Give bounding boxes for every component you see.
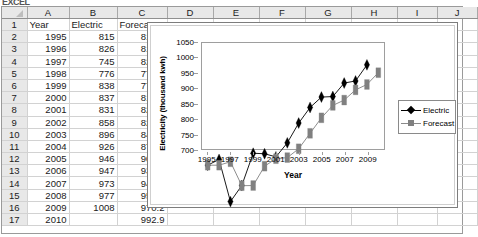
row-header[interactable]: 14 — [2, 177, 27, 189]
row-header[interactable]: 6 — [2, 79, 27, 91]
cell-electric[interactable]: 745 — [69, 55, 117, 67]
cell-electric[interactable]: 776 — [69, 67, 117, 79]
row-header[interactable]: 8 — [2, 104, 27, 116]
y-axis-tick-mark — [194, 57, 198, 58]
row-header[interactable]: 13 — [2, 165, 27, 177]
cell-electric[interactable]: 896 — [69, 128, 117, 140]
series-marker-electric — [319, 92, 324, 103]
column-header-i[interactable]: I — [397, 7, 437, 19]
cell-year[interactable]: 2007 — [27, 177, 69, 189]
y-axis-tick-label: 850 — [181, 99, 194, 108]
y-axis-tick-label: 750 — [181, 130, 194, 139]
cell-electric[interactable]: 973 — [69, 177, 117, 189]
cell-electric[interactable]: 815 — [69, 31, 117, 43]
cell-year[interactable]: 2010 — [27, 214, 69, 226]
row-header[interactable]: 9 — [2, 116, 27, 128]
row-header[interactable]: 11 — [2, 140, 27, 152]
cell-electric[interactable] — [69, 214, 117, 226]
row-header[interactable]: 1 — [2, 19, 27, 31]
cell-header-label[interactable]: Electric — [69, 19, 117, 31]
cell-electric[interactable]: 838 — [69, 79, 117, 91]
y-axis-tick-label: 700 — [181, 146, 194, 155]
x-axis-tick-label: 1999 — [244, 155, 262, 164]
column-header-g[interactable]: G — [305, 7, 351, 19]
column-header-c[interactable]: C — [117, 7, 167, 19]
series-marker-electric — [342, 78, 347, 89]
x-axis-tick-mark — [345, 152, 346, 155]
cell-year[interactable]: 1999 — [27, 79, 69, 91]
y-axis-tick-mark — [194, 119, 198, 120]
row-header[interactable]: 15 — [2, 189, 27, 201]
cell-electric[interactable]: 926 — [69, 140, 117, 152]
x-axis-tick-mark — [322, 152, 323, 155]
column-header-h[interactable]: H — [351, 7, 397, 19]
series-line-forecast — [208, 73, 379, 186]
series-marker-forecast — [342, 95, 347, 105]
cell-empty[interactable] — [437, 214, 477, 226]
y-axis-tick-label: 950 — [181, 68, 194, 77]
cell-year[interactable]: 2008 — [27, 189, 69, 201]
select-all-corner[interactable] — [2, 7, 27, 19]
column-header-a[interactable]: A — [27, 7, 69, 19]
series-marker-electric — [307, 102, 312, 113]
chart-legend[interactable]: Electric Forecast — [398, 100, 456, 134]
row-header[interactable]: 17 — [2, 214, 27, 226]
column-header-j[interactable]: J — [437, 7, 477, 19]
row-header[interactable]: 10 — [2, 128, 27, 140]
cell-header-label[interactable]: Year — [27, 19, 69, 31]
legend-item-forecast[interactable]: Forecast — [401, 117, 453, 130]
series-marker-electric — [228, 196, 233, 207]
y-axis-tick-mark — [194, 150, 198, 151]
cell-electric[interactable]: 837 — [69, 92, 117, 104]
cell-year[interactable]: 2006 — [27, 165, 69, 177]
cell-year[interactable]: 2002 — [27, 116, 69, 128]
cell-electric[interactable]: 947 — [69, 165, 117, 177]
cell-year[interactable]: 2009 — [27, 201, 69, 213]
series-marker-forecast — [319, 113, 324, 123]
y-axis-tick-mark — [194, 88, 198, 89]
row-header[interactable]: 2 — [2, 31, 27, 43]
chart-plot-area[interactable] — [201, 42, 385, 150]
cell-year[interactable]: 2001 — [27, 104, 69, 116]
x-axis-tick-label: 1997 — [221, 155, 239, 164]
cell-year[interactable]: 2003 — [27, 128, 69, 140]
row-header[interactable]: 7 — [2, 92, 27, 104]
chart-x-axis-labels: 19951997199920012003200520072009 — [201, 152, 385, 164]
row-header[interactable]: 3 — [2, 43, 27, 55]
cell-electric[interactable]: 1008 — [69, 201, 117, 213]
cell-empty[interactable] — [397, 214, 437, 226]
cell-year[interactable]: 2004 — [27, 140, 69, 152]
cell-year[interactable]: 1997 — [27, 55, 69, 67]
column-header-e[interactable]: E — [213, 7, 259, 19]
row-header[interactable]: 12 — [2, 153, 27, 165]
x-axis-tick-mark — [299, 152, 300, 155]
series-marker-forecast — [353, 85, 358, 95]
cell-electric[interactable]: 946 — [69, 153, 117, 165]
cell-forecast[interactable]: 992.9 — [117, 214, 167, 226]
embedded-chart-object[interactable]: Electricity (thousand kwh) 7007508008509… — [147, 22, 458, 208]
series-marker-electric — [353, 76, 358, 87]
column-header-d[interactable]: D — [167, 7, 213, 19]
y-axis-tick-label: 1050 — [176, 38, 194, 47]
cell-year[interactable]: 2005 — [27, 153, 69, 165]
x-axis-tick-mark — [207, 152, 208, 155]
column-header-f[interactable]: F — [259, 7, 305, 19]
y-axis-tick-mark — [194, 42, 198, 43]
cell-electric[interactable]: 826 — [69, 43, 117, 55]
cell-electric[interactable]: 858 — [69, 116, 117, 128]
row-header[interactable]: 4 — [2, 55, 27, 67]
cell-year[interactable]: 1996 — [27, 43, 69, 55]
row-header[interactable]: 16 — [2, 201, 27, 213]
x-axis-tick-mark — [276, 152, 277, 155]
cell-year[interactable]: 1995 — [27, 31, 69, 43]
row-header[interactable]: 5 — [2, 67, 27, 79]
column-header-b[interactable]: B — [69, 7, 117, 19]
legend-item-electric[interactable]: Electric — [401, 104, 453, 117]
cell-electric[interactable]: 831 — [69, 104, 117, 116]
cell-year[interactable]: 2000 — [27, 92, 69, 104]
x-axis-tick-label: 2009 — [359, 155, 377, 164]
y-axis-tick-mark — [194, 73, 198, 74]
cell-electric[interactable]: 977 — [69, 189, 117, 201]
cell-year[interactable]: 1998 — [27, 67, 69, 79]
series-marker-forecast — [239, 181, 244, 191]
